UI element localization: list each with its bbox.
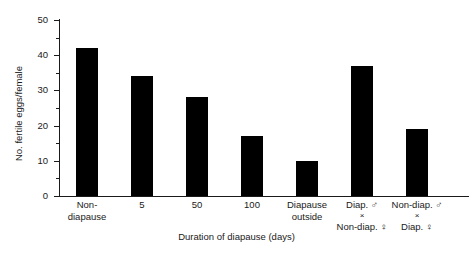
plot-area: [59, 20, 469, 196]
bar-nondiap-male-x-diap-female: [406, 129, 428, 196]
bar-diapause-outside: [296, 161, 318, 196]
bar-chart: No. fertile eggs/female 0 10 20 30 40 50: [0, 0, 473, 263]
bar-50: [186, 97, 208, 196]
bar-non-diapause: [76, 48, 98, 196]
y-tick-label-10: 10: [37, 156, 48, 166]
x-axis-line: [59, 196, 469, 197]
x-axis-title: Duration of diapause (days): [0, 231, 473, 242]
bar-5: [131, 76, 153, 196]
y-tick-label-50: 50: [37, 15, 48, 25]
y-tick-label-20: 20: [37, 121, 48, 131]
bar-100: [241, 136, 263, 196]
y-axis-tick-labels: 0 10 20 30 40 50: [0, 20, 48, 196]
y-tick-label-40: 40: [37, 50, 48, 60]
bar-diap-male-x-nondiap-female: [351, 66, 373, 196]
y-tick-label-30: 30: [37, 86, 48, 96]
x-tick-label-6: Non-diap. ♂×Diap. ♀: [374, 199, 460, 232]
